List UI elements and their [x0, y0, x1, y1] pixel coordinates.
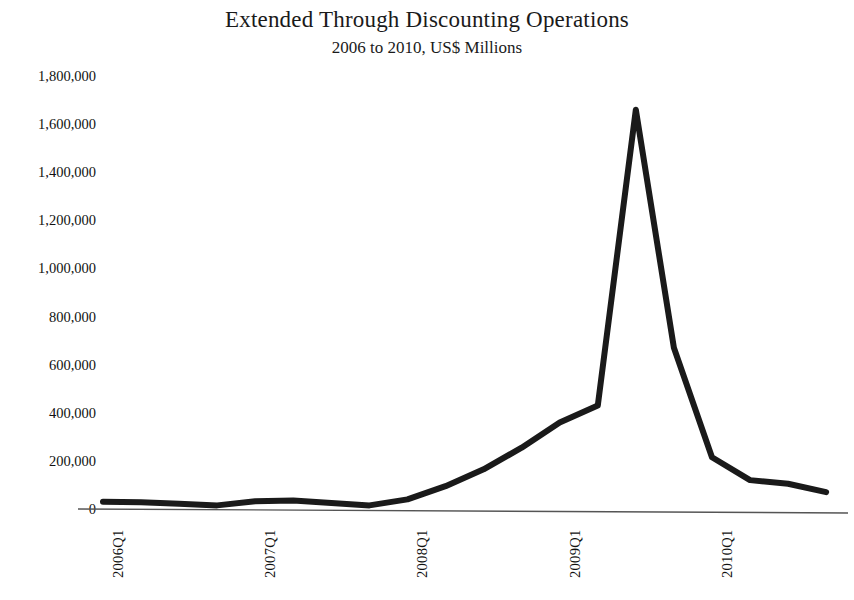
chart-figure: Extended Through Discounting Operations … — [0, 0, 854, 600]
x-axis-line — [78, 509, 848, 513]
line-series-plot — [0, 0, 854, 600]
series-line-extended-through-discounting-operations — [103, 110, 826, 506]
